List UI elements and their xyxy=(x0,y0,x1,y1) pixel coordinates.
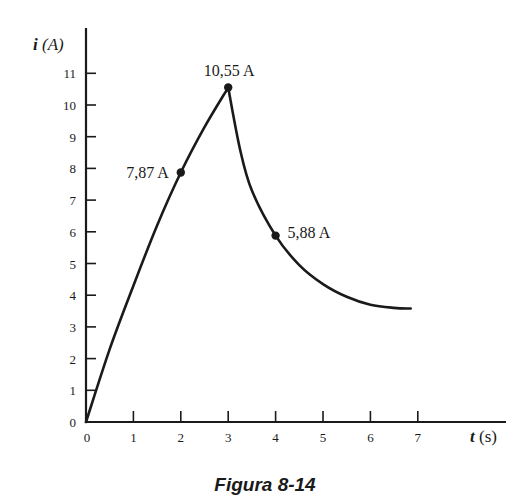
y-tick-label: 0 xyxy=(70,415,77,430)
figure-caption: Figura 8-14 xyxy=(0,474,530,496)
current-vs-time-chart: 0123456789101101234567i (A)t (s)7,87 A10… xyxy=(0,0,530,502)
x-tick-label: 5 xyxy=(320,430,327,445)
y-tick-label: 3 xyxy=(70,320,77,335)
y-tick-label: 5 xyxy=(70,257,77,272)
x-tick-label: 7 xyxy=(415,430,422,445)
data-point-marker xyxy=(224,83,232,91)
curve-decay xyxy=(228,88,410,309)
x-axis-title: t (s) xyxy=(470,427,497,446)
x-tick-label: 1 xyxy=(130,430,137,445)
y-tick-label: 4 xyxy=(70,288,77,303)
ticks xyxy=(86,73,418,422)
x-tick-label: 6 xyxy=(367,430,374,445)
data-point-marker xyxy=(271,231,279,239)
x-tick-label: 2 xyxy=(178,430,185,445)
curves xyxy=(86,88,411,422)
x-tick-label: 4 xyxy=(272,430,279,445)
labels: 0123456789101101234567i (A)t (s)7,87 A10… xyxy=(33,35,497,446)
annotation-label: 5,88 A xyxy=(288,224,331,241)
y-tick-label: 1 xyxy=(70,383,77,398)
curve-rise xyxy=(86,88,228,422)
y-tick-label: 11 xyxy=(63,66,76,81)
x-tick-label: 3 xyxy=(225,430,232,445)
y-tick-label: 8 xyxy=(70,161,77,176)
y-tick-label: 7 xyxy=(70,193,77,208)
y-tick-label: 2 xyxy=(70,352,77,367)
x-tick-label: 0 xyxy=(84,430,91,445)
annotation-label: 7,87 A xyxy=(126,164,169,181)
y-tick-label: 9 xyxy=(70,130,77,145)
data-point-marker xyxy=(177,168,185,176)
annotation-label: 10,55 A xyxy=(204,62,255,79)
y-tick-label: 6 xyxy=(70,225,77,240)
y-tick-label: 10 xyxy=(63,98,76,113)
y-axis-title: i (A) xyxy=(33,35,64,54)
